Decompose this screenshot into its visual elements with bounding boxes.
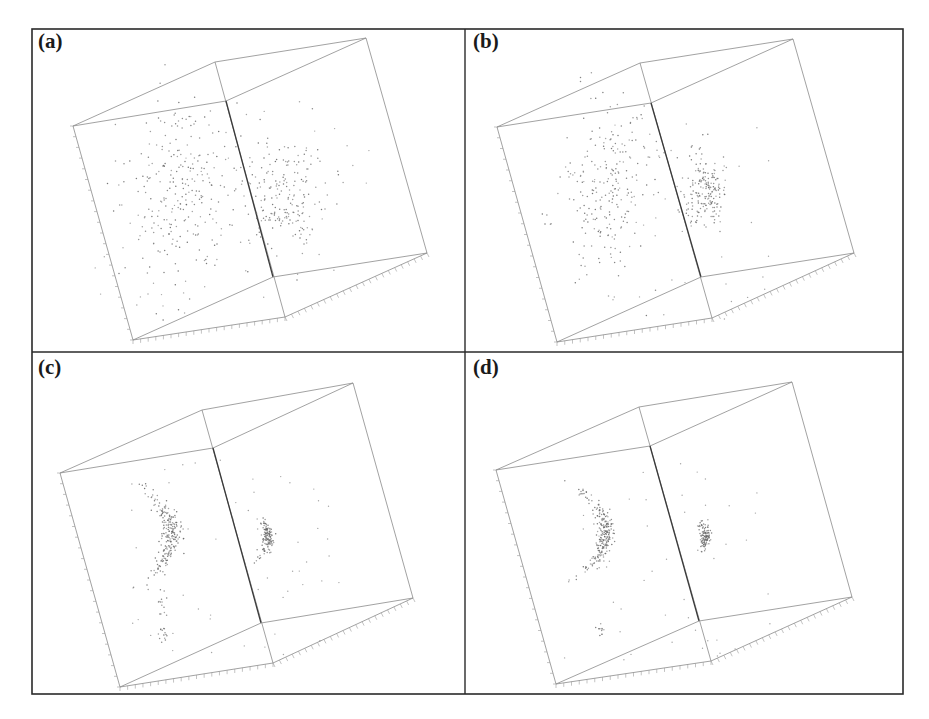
data-point <box>703 168 705 170</box>
data-point <box>314 203 316 205</box>
data-point <box>692 216 694 218</box>
data-point <box>194 204 196 206</box>
data-point <box>569 162 571 164</box>
data-point <box>248 510 250 512</box>
data-point <box>188 116 190 118</box>
data-point <box>288 216 290 218</box>
data-point <box>619 631 620 632</box>
data-point <box>665 198 666 199</box>
data-point <box>583 220 585 222</box>
data-point <box>691 221 693 223</box>
data-point <box>141 153 143 155</box>
data-point <box>210 208 212 210</box>
data-point <box>274 211 276 213</box>
data-point <box>602 548 604 550</box>
data-point <box>150 570 152 572</box>
data-point <box>324 208 326 210</box>
axis-tick-y <box>846 600 848 604</box>
data-point <box>263 540 265 542</box>
data-point <box>603 146 605 148</box>
data-point <box>261 545 263 547</box>
data-point <box>594 562 596 564</box>
data-point <box>220 185 222 187</box>
data-point <box>123 181 125 183</box>
data-point <box>199 249 201 251</box>
data-point <box>700 181 702 183</box>
data-point <box>601 531 603 533</box>
data-point <box>162 305 163 306</box>
data-point <box>368 150 369 151</box>
data-point <box>197 160 199 162</box>
data-point <box>163 199 165 201</box>
data-point <box>263 157 265 159</box>
data-point <box>601 524 603 526</box>
data-point <box>640 245 642 247</box>
data-point <box>169 223 170 224</box>
data-point <box>271 248 273 250</box>
data-point <box>298 161 300 163</box>
data-point <box>167 190 169 192</box>
data-point <box>161 601 163 603</box>
data-point <box>572 174 574 176</box>
data-point <box>595 187 597 189</box>
data-point <box>265 216 267 218</box>
data-point <box>165 505 167 507</box>
data-point <box>707 185 709 187</box>
data-point <box>616 204 618 206</box>
data-point <box>275 220 277 222</box>
data-point <box>586 214 588 216</box>
data-point <box>592 189 594 191</box>
data-point <box>270 542 272 544</box>
data-point <box>592 565 594 567</box>
data-point <box>719 188 721 190</box>
data-point <box>177 538 178 539</box>
data-point <box>586 498 588 500</box>
data-point <box>252 478 253 479</box>
data-point <box>568 176 570 178</box>
data-point <box>611 174 613 176</box>
data-point <box>162 571 164 573</box>
data-point <box>207 154 209 156</box>
data-point <box>163 606 165 608</box>
data-point <box>187 144 189 146</box>
data-point <box>191 178 193 180</box>
data-point <box>266 543 268 545</box>
data-point <box>261 167 263 169</box>
data-point <box>624 145 626 147</box>
data-point <box>272 171 274 173</box>
data-point <box>174 113 176 115</box>
data-point <box>629 498 630 499</box>
data-point <box>166 528 168 530</box>
data-point <box>276 185 278 187</box>
data-point <box>252 174 254 176</box>
data-point <box>708 534 710 536</box>
scatter-points-(b) <box>542 72 770 320</box>
data-point <box>583 205 585 207</box>
data-point <box>277 188 279 190</box>
axis-tick-y <box>788 626 790 630</box>
data-point <box>175 123 177 125</box>
data-point <box>195 194 197 196</box>
data-point <box>170 519 172 521</box>
data-point <box>702 134 704 136</box>
data-point <box>713 189 715 191</box>
data-point <box>248 182 250 184</box>
data-point <box>578 254 580 256</box>
data-point <box>636 222 637 223</box>
data-point <box>203 168 205 170</box>
data-point <box>711 532 713 534</box>
data-point <box>204 286 205 287</box>
data-point <box>163 165 165 167</box>
data-point <box>612 537 614 539</box>
data-point <box>592 509 594 511</box>
data-point <box>769 623 770 624</box>
data-point <box>145 483 147 485</box>
data-point <box>264 532 266 534</box>
data-point <box>284 217 286 219</box>
data-point <box>698 168 700 170</box>
data-point <box>195 224 197 226</box>
data-point <box>277 218 279 220</box>
data-point <box>162 508 164 510</box>
data-point <box>592 513 594 515</box>
data-point <box>275 207 277 209</box>
